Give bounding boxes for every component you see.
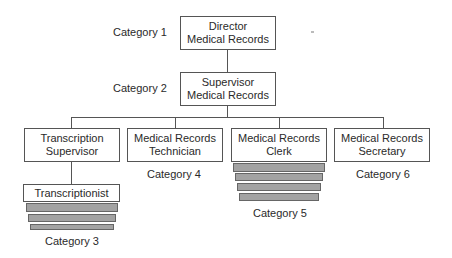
- transcription-supervisor-box: Transcription Supervisor: [24, 128, 120, 162]
- category-1-label: Category 1: [113, 26, 167, 38]
- transcription-supervisor-line2: Supervisor: [46, 145, 99, 158]
- supervisor-dept: Medical Records: [187, 89, 269, 102]
- clerk-line1: Medical Records: [238, 132, 320, 145]
- transcriptionist-stack-bar: [28, 214, 116, 222]
- clerk-line2: Clerk: [266, 145, 292, 158]
- clerk-box: Medical Records Clerk: [231, 128, 327, 162]
- secretary-box: Medical Records Secretary: [334, 128, 430, 162]
- connector-drop-transcription: [71, 117, 72, 128]
- clerk-stack-bar: [233, 163, 325, 172]
- transcriptionist-label: Transcriptionist: [34, 187, 108, 200]
- category-2-label: Category 2: [113, 82, 167, 94]
- scan-artifact: [311, 31, 314, 33]
- category-5-label: Category 5: [253, 207, 307, 219]
- transcriptionist-stack-bar: [30, 224, 114, 230]
- category-4-label: Category 4: [147, 168, 201, 180]
- transcription-supervisor-line1: Transcription: [40, 132, 103, 145]
- clerk-stack-bar: [235, 173, 323, 181]
- connector-drop-technician: [175, 117, 176, 128]
- connector-director-supervisor: [227, 50, 228, 72]
- technician-line1: Medical Records: [134, 132, 216, 145]
- transcriptionist-stack-bar: [26, 203, 118, 212]
- category-3-label: Category 3: [45, 235, 99, 247]
- clerk-stack-bar: [237, 183, 321, 191]
- supervisor-box: Supervisor Medical Records: [180, 72, 276, 106]
- director-title: Director: [209, 20, 248, 33]
- category-6-label: Category 6: [356, 168, 410, 180]
- connector-supervisor-down: [227, 106, 228, 117]
- transcriptionist-box: Transcriptionist: [23, 184, 120, 202]
- supervisor-title: Supervisor: [202, 76, 255, 89]
- connector-transcription-transcriptionist: [71, 162, 72, 184]
- director-dept: Medical Records: [187, 33, 269, 46]
- director-box: Director Medical Records: [180, 16, 276, 50]
- technician-box: Medical Records Technician: [127, 128, 223, 162]
- connector-drop-clerk: [279, 117, 280, 128]
- secretary-line1: Medical Records: [341, 132, 423, 145]
- technician-line2: Technician: [149, 145, 201, 158]
- clerk-stack-bar: [239, 193, 319, 201]
- connector-drop-secretary: [383, 117, 384, 128]
- secretary-line2: Secretary: [358, 145, 405, 158]
- connector-horizontal-bus: [71, 117, 384, 118]
